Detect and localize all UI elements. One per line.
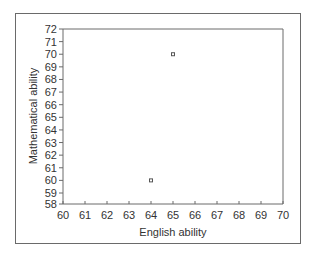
x-tick-label: 62 xyxy=(101,209,113,221)
x-tick-label: 60 xyxy=(57,209,69,221)
x-tick-label: 67 xyxy=(211,209,223,221)
x-tick-label: 68 xyxy=(233,209,245,221)
y-tick-label: 72 xyxy=(45,23,57,35)
x-tick-label: 63 xyxy=(123,209,135,221)
y-tick-label: 68 xyxy=(45,73,57,85)
y-tick-label: 64 xyxy=(45,124,57,136)
x-tick-label: 70 xyxy=(277,209,289,221)
y-tick-label: 67 xyxy=(45,86,57,98)
scatter-chart: 727170696867666564636261605958 606162636… xyxy=(0,0,314,262)
y-tick-label: 71 xyxy=(45,36,57,48)
x-tick-label: 66 xyxy=(189,209,201,221)
x-tick-label: 64 xyxy=(145,209,157,221)
y-tick-label: 62 xyxy=(45,149,57,161)
x-axis-title: English ability xyxy=(139,226,207,238)
y-tick-label: 58 xyxy=(45,198,57,210)
y-axis: 727170696867666564636261605958 xyxy=(45,23,63,210)
y-tick-label: 70 xyxy=(45,48,57,60)
y-tick-label: 61 xyxy=(45,162,57,174)
data-point-marker xyxy=(172,53,175,56)
x-tick-label: 65 xyxy=(167,209,179,221)
x-tick-label: 69 xyxy=(255,209,267,221)
y-axis-title: Mathematical ability xyxy=(27,67,39,164)
x-tick-label: 61 xyxy=(79,209,91,221)
data-points xyxy=(150,53,175,182)
x-axis: 6061626364656667686970 xyxy=(57,201,289,221)
y-tick-label: 69 xyxy=(45,61,57,73)
y-tick-label: 63 xyxy=(45,137,57,149)
y-tick-label: 66 xyxy=(45,99,57,111)
y-tick-label: 65 xyxy=(45,111,57,123)
y-tick-label: 60 xyxy=(45,174,57,186)
data-point-marker xyxy=(150,179,153,182)
